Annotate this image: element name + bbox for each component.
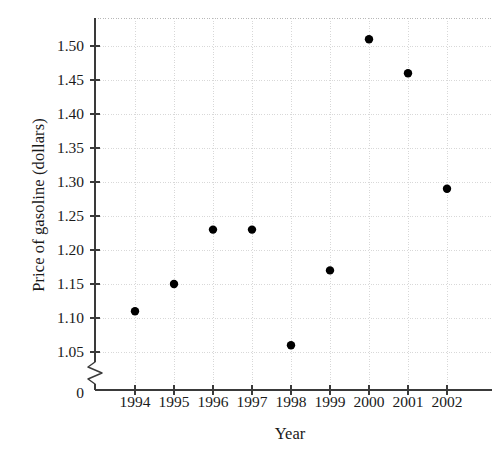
axis-lines [95,18,492,390]
horizontal-gridlines [95,46,492,352]
y-axis-break-symbol [88,362,102,384]
plot-area [0,0,498,451]
scatter-chart: Price of gasoline (dollars) 1.50 1.45 1.… [0,0,498,451]
vertical-gridlines [135,18,447,390]
